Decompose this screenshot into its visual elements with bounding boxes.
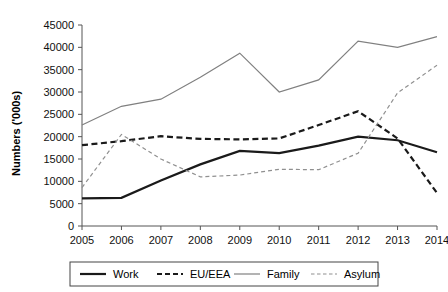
y-tick-label: 10000: [43, 175, 74, 187]
y-tick-label: 25000: [43, 108, 74, 120]
series-line-asylum: [82, 65, 437, 187]
y-tick-label: 45000: [43, 19, 74, 31]
y-tick-label: 20000: [43, 131, 74, 143]
y-tick-label: 0: [68, 220, 74, 232]
series-line-family: [82, 37, 437, 125]
y-axis-title: Numbers ('000s): [10, 91, 22, 176]
series-line-work: [82, 137, 437, 199]
x-tick-label: 2012: [346, 234, 370, 246]
line-chart: Numbers ('000s) 050001000015000200002500…: [0, 0, 448, 292]
x-tick-label: 2009: [228, 234, 252, 246]
y-axis-ticks: 0500010000150002000025000300003500040000…: [43, 19, 82, 232]
x-tick-label: 2011: [307, 234, 331, 246]
x-tick-label: 2014: [425, 234, 448, 246]
chart-legend: WorkEU/EEAFamilyAsylum: [70, 262, 380, 286]
x-tick-label: 2006: [109, 234, 133, 246]
x-tick-label: 2010: [267, 234, 291, 246]
x-axis-ticks: 2005200620072008200920102011201220132014: [70, 226, 448, 246]
legend-label-work: Work: [113, 268, 139, 280]
legend-label-asylum: Asylum: [344, 268, 380, 280]
chart-canvas: Numbers ('000s) 050001000015000200002500…: [0, 0, 448, 292]
y-tick-label: 30000: [43, 86, 74, 98]
x-tick-label: 2007: [149, 234, 173, 246]
y-tick-label: 35000: [43, 64, 74, 76]
legend-label-eu-eea: EU/EEA: [190, 268, 231, 280]
y-tick-label: 15000: [43, 153, 74, 165]
legend-label-family: Family: [267, 268, 300, 280]
x-tick-label: 2013: [385, 234, 409, 246]
x-tick-label: 2005: [70, 234, 94, 246]
series-lines: [82, 37, 437, 199]
y-axis-title-text: Numbers ('000s): [10, 91, 22, 176]
y-tick-label: 40000: [43, 41, 74, 53]
y-tick-label: 5000: [50, 198, 74, 210]
x-tick-label: 2008: [188, 234, 212, 246]
